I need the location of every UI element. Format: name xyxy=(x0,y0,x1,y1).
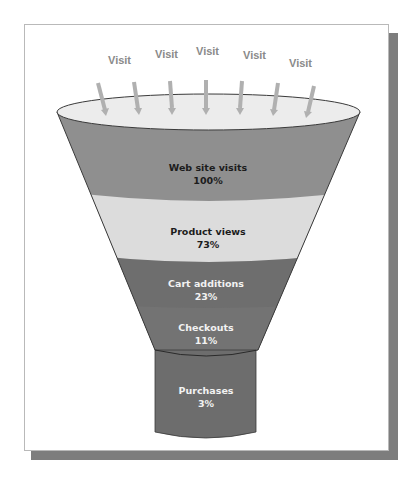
stage-value: 100% xyxy=(193,175,223,186)
stage-value: 23% xyxy=(195,291,218,302)
visit-label: Visit xyxy=(289,57,312,69)
arrow-icon xyxy=(170,81,172,108)
visit-label: Visit xyxy=(108,54,131,66)
visit-label: Visit xyxy=(196,45,219,57)
stage-value: 3% xyxy=(198,398,215,409)
stage-label: Web site visits xyxy=(169,162,248,173)
stage-label: Cart additions xyxy=(168,278,244,289)
funnel-diagram: Visit Visit Visit Visit Visit Web site v… xyxy=(0,0,416,479)
stage-label: Checkouts xyxy=(178,322,234,333)
stage-label: Purchases xyxy=(179,385,234,396)
visit-label: Visit xyxy=(243,49,266,61)
arrow-icon xyxy=(240,81,242,108)
stage-label: Product views xyxy=(170,226,246,237)
visit-label: Visit xyxy=(155,48,178,60)
stage-value: 73% xyxy=(197,239,220,250)
stage-value: 11% xyxy=(195,335,218,346)
